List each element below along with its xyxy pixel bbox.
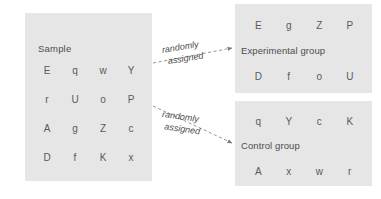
connector-arrows xyxy=(0,0,381,199)
diagram-canvas: Sample E q w Y r U o P A g Z c D f K x E… xyxy=(0,0,381,199)
